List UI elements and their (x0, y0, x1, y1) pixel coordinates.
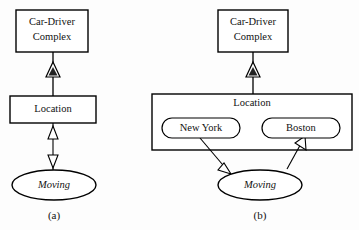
location-label-b: Location (233, 97, 271, 108)
figure-container: Car-Driver Complex Location Moving (a) C… (0, 0, 359, 230)
diagram-canvas: Car-Driver Complex Location Moving (a) C… (0, 0, 359, 230)
hollow-triangle-up-icon (48, 126, 58, 139)
diagram-b: Car-Driver Complex Location New York Bos… (152, 10, 352, 222)
moving-state-label-b: Moving (243, 179, 276, 190)
diagram-a: Car-Driver Complex Location Moving (a) (10, 10, 96, 222)
hollow-triangle-down-icon (48, 155, 58, 168)
caption-a: (a) (48, 209, 61, 222)
car-driver-complex-label-line2-b: Complex (234, 31, 273, 42)
car-driver-complex-label-line2: Complex (33, 31, 72, 42)
moving-state-label-a: Moving (37, 179, 70, 190)
boston-label: Boston (286, 122, 317, 133)
car-driver-complex-label-line1-b: Car-Driver (230, 16, 276, 27)
car-driver-complex-label-line1: Car-Driver (29, 16, 75, 27)
hollow-triangle-icon-moving (218, 163, 231, 174)
caption-b: (b) (254, 209, 267, 222)
new-york-label: New York (180, 122, 223, 133)
location-label-a: Location (34, 103, 72, 114)
